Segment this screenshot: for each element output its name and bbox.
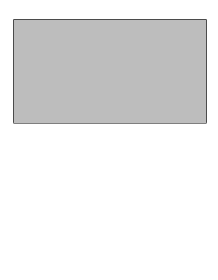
neckline-dart-diagram bbox=[0, 0, 218, 280]
panel-fill-25 bbox=[14, 20, 206, 123]
